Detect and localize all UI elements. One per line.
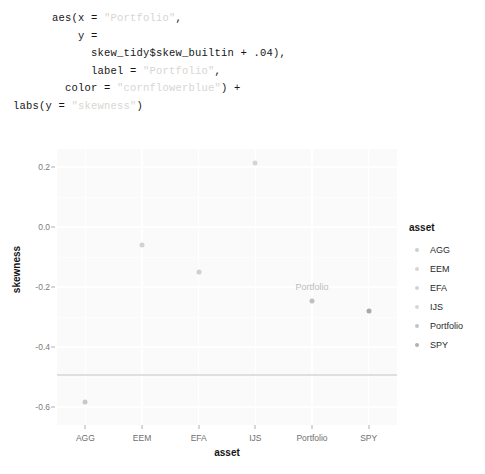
legend-item-label: EEM [430,264,450,274]
legend-item-ijs[interactable]: IJS [409,297,485,316]
code-line: aes(x = "Portfolio", [0,10,485,28]
code-line: label = "Portfolio", [0,63,485,81]
gridline-major-vertical [255,149,256,425]
reference-line [57,374,397,376]
x-axis-tick-mark [142,425,143,429]
legend-key [409,286,425,290]
legend-key [409,324,425,328]
legend-item-label: AGG [430,245,450,255]
x-axis-label: asset [57,447,397,458]
gridline-major-horizontal [57,406,397,407]
code-line: color = "cornflowerblue") + [0,80,485,98]
code-string-token: "Portfolio" [143,65,215,77]
legend-item-agg[interactable]: AGG [409,240,485,259]
legend-items: AGGEEMEFAIJSPortfolioSPY [409,240,485,354]
x-axis-tick-mark [85,425,86,429]
data-point [310,298,315,303]
legend-dot-icon [415,343,419,347]
code-token: skew_tidy$skew_builtin + .04), [0,47,286,59]
legend-item-label: IJS [430,302,443,312]
gridline-major-horizontal [57,166,397,167]
code-token: , [215,65,222,77]
x-axis-tick-mark [198,425,199,429]
y-axis-tick-mark [51,227,55,228]
legend-dot-icon [415,305,419,309]
x-axis-tick-label: IJS [249,433,261,443]
code-token: , [176,12,183,24]
legend-dot-icon [415,286,419,290]
y-axis-tick-label: -0.6 [35,402,50,412]
data-point [83,400,88,405]
plot-panel: Portfolio [57,149,397,425]
code-token: aes(x = [0,12,104,24]
gridline-major-vertical [141,149,142,425]
y-axis-tick-label: 0.2 [38,162,50,172]
legend-dot-icon [415,267,419,271]
x-axis-tick-mark [255,425,256,429]
x-axis-tick-label: EFA [191,433,207,443]
legend-item-label: EFA [430,283,447,293]
x-axis-tick-mark [312,425,313,429]
gridline-minor-horizontal [57,257,397,258]
legend-key [409,305,425,309]
code-token: ) + [221,82,241,94]
gridline-major-vertical [85,149,86,425]
legend: asset AGGEEMEFAIJSPortfolioSPY [409,222,485,354]
y-axis-tick-mark [51,167,55,168]
gridline-minor-horizontal [57,377,397,378]
code-token: label = [0,65,143,77]
y-axis-tick-mark [51,287,55,288]
code-line: skew_tidy$skew_builtin + .04), [0,45,485,63]
legend-item-eem[interactable]: EEM [409,259,485,278]
legend-dot-icon [415,248,419,252]
legend-title: asset [409,222,485,233]
legend-item-efa[interactable]: EFA [409,278,485,297]
legend-item-spy[interactable]: SPY [409,335,485,354]
y-axis-tick-mark [51,347,55,348]
gridline-major-horizontal [57,346,397,347]
legend-item-label: SPY [430,340,448,350]
legend-dot-icon [415,324,419,328]
x-axis-tick-mark [368,425,369,429]
code-token: ) [137,100,144,112]
legend-item-portfolio[interactable]: Portfolio [409,316,485,335]
gridline-minor-horizontal [57,317,397,318]
data-point [196,270,201,275]
y-axis-ticks: 0.20.0-0.2-0.4-0.6 [24,149,50,425]
code-string-token: "cornflowerblue" [117,82,221,94]
x-axis-tick-label: EEM [133,433,151,443]
code-string-token: "Portfolio" [104,12,176,24]
gridline-major-horizontal [57,226,397,227]
x-axis-ticks: AGGEEMEFAIJSPortfolioSPY [57,425,397,447]
code-token: color = [0,82,117,94]
y-axis-tick-label: 0.0 [38,222,50,232]
y-axis-label: skewness [11,220,22,320]
gridline-major-vertical [198,149,199,425]
code-token: labs(y = [0,100,72,112]
data-point [253,160,258,165]
legend-key [409,343,425,347]
x-axis-tick-label: AGG [76,433,95,443]
y-axis-tick-label: -0.4 [35,342,50,352]
gridline-major-vertical [368,149,369,425]
data-point-label: Portfolio [295,282,328,292]
y-axis-tick-label: -0.2 [35,282,50,292]
x-axis-tick-label: Portfolio [296,433,327,443]
gridline-minor-horizontal [57,197,397,198]
legend-key [409,267,425,271]
scatter-plot: Portfolio 0.20.0-0.2-0.4-0.6 AGGEEMEFAIJ… [0,140,485,474]
gridline-major-horizontal [57,286,397,287]
code-line: y = [0,28,485,46]
legend-key [409,248,425,252]
data-point [140,243,145,248]
code-snippet: aes(x = "Portfolio", y = skew_tidy$skew_… [0,10,485,115]
code-string-token: "skewness" [72,100,137,112]
legend-item-label: Portfolio [430,321,463,331]
code-line: labs(y = "skewness") [0,98,485,116]
y-axis-tick-mark [51,407,55,408]
x-axis-tick-label: SPY [360,433,377,443]
code-token: y = [0,30,98,42]
data-point [366,309,371,314]
